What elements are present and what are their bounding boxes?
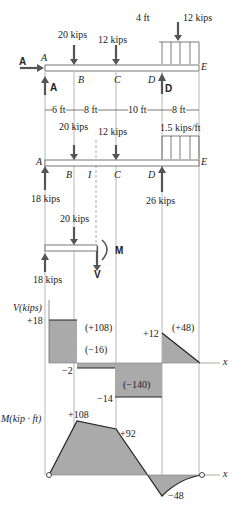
load-12-fbd: 12 kips (98, 127, 127, 137)
x-axis-m: x (223, 469, 227, 479)
label-b: B (78, 75, 84, 85)
label-b2: B (66, 170, 72, 180)
label-i: I (88, 170, 91, 180)
label-a: A (41, 53, 47, 63)
reaction-18: 18 kips (31, 194, 60, 204)
dist-load: 1.5 kips/ft (160, 123, 201, 133)
reaction-18-sec: 18 kips (33, 275, 62, 285)
area-48: (+48) (172, 323, 194, 333)
span-10ft: 10 ft (128, 105, 147, 115)
m-108: +108 (68, 410, 89, 420)
span-8ft-b: 8 ft (172, 105, 186, 115)
label-d-reaction: D (165, 84, 172, 94)
area-108: (+108) (85, 323, 112, 333)
m-92: +92 (120, 429, 136, 439)
area-140: (−140) (123, 380, 150, 390)
dim-4ft: 4 ft (136, 13, 150, 23)
load-20: 20 kips (58, 30, 87, 40)
area-16: (−16) (85, 345, 107, 355)
label-a2: A (36, 157, 42, 167)
reaction-26: 26 kips (146, 196, 175, 206)
load-20-sec: 20 kips (60, 214, 89, 224)
label-ax: A (19, 57, 26, 67)
label-e: E (201, 62, 207, 72)
v-18: +18 (27, 316, 43, 326)
x-axis-v: x (223, 357, 227, 367)
v-12: +12 (143, 329, 159, 339)
span-6ft: 6 ft (52, 105, 66, 115)
m-m48: −48 (168, 491, 184, 501)
shear-axis-label: V(kips) (13, 303, 42, 313)
label-e2: E (201, 157, 207, 167)
label-d2: D (148, 170, 155, 180)
label-ay: A (50, 83, 57, 93)
load-12-top: 12 kips (183, 13, 212, 23)
load-12: 12 kips (98, 35, 127, 45)
label-c: C (114, 75, 121, 85)
v-m2: −2 (62, 366, 73, 376)
label-c2: C (114, 170, 121, 180)
v-m14: −14 (97, 394, 113, 404)
label-v: V (94, 270, 101, 280)
load-20-fbd: 20 kips (59, 122, 88, 132)
beam-top (45, 65, 199, 71)
span-8ft: 8 ft (84, 105, 98, 115)
label-d: D (148, 75, 155, 85)
moment-axis-label: M(kip · ft) (1, 414, 41, 424)
label-m: M (115, 246, 123, 256)
